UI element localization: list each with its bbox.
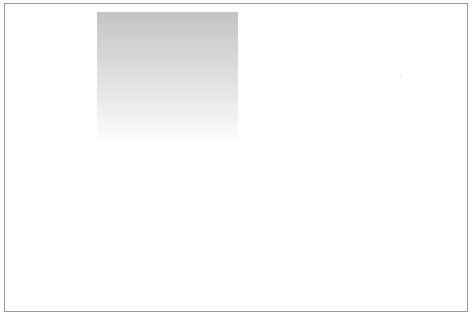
gradient-rectangle xyxy=(97,12,238,146)
faint-speck xyxy=(400,75,402,77)
canvas xyxy=(0,0,473,318)
